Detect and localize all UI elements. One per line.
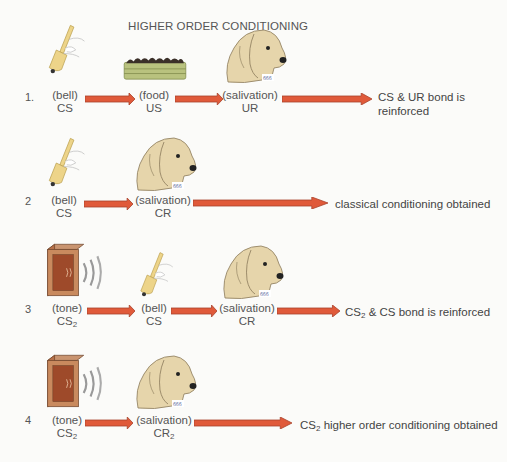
arrow-icon	[175, 93, 223, 105]
arrow-icon	[277, 305, 340, 317]
step-label: (salivation)CR	[219, 302, 275, 328]
step-label: (bell)CS	[51, 194, 77, 220]
outcome-text: CS2 higher order conditioning obtained	[300, 418, 498, 432]
step-label: (tone) CS2	[52, 302, 82, 328]
bell-icon	[136, 250, 176, 300]
step-label: (food)US	[139, 89, 169, 115]
arrow-icon	[87, 305, 135, 317]
step-label: (salivation)CR	[135, 194, 191, 220]
bell-icon	[44, 135, 88, 191]
arrow-icon	[84, 198, 133, 210]
arrow-icon	[194, 417, 292, 429]
step-label: (salivation) CR2	[136, 414, 192, 440]
dog-icon	[215, 240, 285, 300]
arrow-icon	[282, 93, 372, 105]
step-number: 3	[25, 303, 31, 315]
bell-icon	[44, 22, 88, 78]
outcome-text: CS & UR bond isreinforced	[378, 90, 465, 118]
step-label: (bell)CS	[52, 89, 78, 115]
food-tray-icon	[122, 53, 188, 81]
arrow-icon	[85, 417, 133, 429]
step-label: (bell)CS	[141, 302, 167, 328]
step-label: (salivation)UR	[222, 89, 278, 115]
dog-icon	[128, 132, 198, 192]
step-number: 1.	[25, 91, 34, 103]
arrow-icon	[171, 305, 217, 317]
step-label: (tone) CS2	[52, 414, 82, 440]
outcome-text: CS2 & CS bond is reinforced	[345, 305, 490, 319]
arrow-icon	[85, 93, 135, 105]
speaker-box-icon	[46, 242, 106, 298]
speaker-box-icon	[46, 353, 106, 409]
dog-icon	[218, 24, 288, 84]
arrow-icon	[193, 197, 328, 209]
outcome-text: classical conditioning obtained	[335, 197, 490, 211]
dog-icon	[128, 350, 198, 410]
step-number: 4	[25, 414, 31, 426]
step-number: 2	[25, 195, 31, 207]
